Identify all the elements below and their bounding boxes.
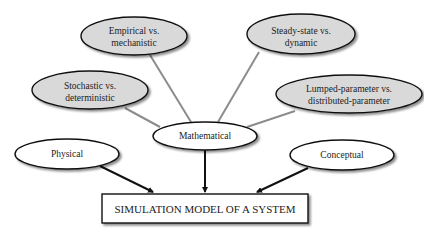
label-stochastic-1: Stochastic vs. xyxy=(64,81,116,91)
primary-arrows xyxy=(100,150,308,192)
node-lumped[interactable] xyxy=(276,75,422,113)
label-stochastic-2: deterministic xyxy=(65,93,115,103)
label-empirical-2: mechanistic xyxy=(111,38,156,48)
diagram-canvas: Empirical vs. mechanistic Steady-state v… xyxy=(0,0,424,239)
label-empirical-1: Empirical vs. xyxy=(109,26,160,36)
connector-stochastic xyxy=(125,108,160,127)
arrow-physical xyxy=(100,166,153,192)
label-lumped-2: distributed-parameter xyxy=(308,96,391,106)
label-lumped-1: Lumped-parameter vs. xyxy=(306,84,392,94)
connector-steady-state xyxy=(218,52,259,122)
arrow-conceptual xyxy=(257,168,308,192)
label-steady-state-2: dynamic xyxy=(285,38,318,48)
node-empirical[interactable] xyxy=(81,17,187,55)
dimension-connectors xyxy=(125,52,295,127)
label-mathematical: Mathematical xyxy=(179,131,232,141)
label-conceptual: Conceptual xyxy=(320,150,364,160)
label-steady-state-1: Steady-state vs. xyxy=(271,26,331,36)
label-root: SIMULATION MODEL OF A SYSTEM xyxy=(114,203,295,215)
label-physical: Physical xyxy=(51,149,84,159)
connector-empirical xyxy=(150,55,191,122)
connector-lumped xyxy=(247,111,295,127)
